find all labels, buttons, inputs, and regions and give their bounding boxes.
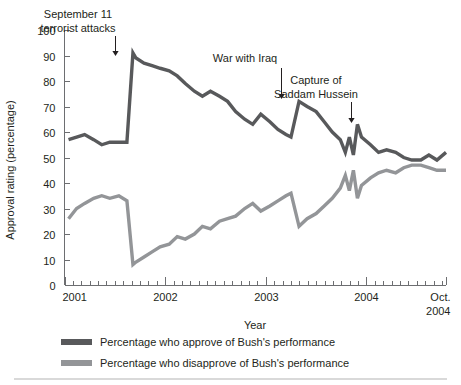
y-tick-label-10: 10 [43, 255, 55, 267]
y-tick-label-60: 60 [43, 127, 55, 139]
legend-label-disapprove: Percentage who disapprove of Bush's perf… [100, 357, 349, 369]
x-tick-label-2004: 2004 [354, 291, 378, 303]
y-tick-label-70: 70 [43, 102, 55, 114]
x-axis-tick-labels: 2001200220032004Oct.2004 [63, 291, 451, 317]
chart-annotations: September 11terrorist attacksWar with Ir… [40, 8, 357, 123]
annotation-arrow-head-capture-of-saddam-hussein [348, 118, 354, 123]
x-tick-label-2003: 2003 [254, 291, 278, 303]
annotation-text-capture-of-saddam-hussein-line2: Saddam Hussein [274, 88, 358, 100]
y-tick-label-40: 40 [43, 178, 55, 190]
x-axis-minor-ticks [74, 281, 443, 285]
legend-swatch-approve [61, 339, 92, 345]
annotation-text-war-with-iraq-line1: War with Iraq [213, 52, 277, 64]
x-tick-label-oct-year: 2004 [426, 305, 450, 317]
x-tick-label-2001: 2001 [63, 291, 87, 303]
annotation-text-capture-of-saddam-hussein-line1: Capture of [290, 74, 342, 86]
annotation-september-11: September 11terrorist attacks [40, 8, 118, 56]
legend-label-approve: Percentage who approve of Bush's perform… [100, 336, 335, 348]
y-axis-ticks [65, 31, 70, 286]
annotation-text-september-11-line2: terrorist attacks [40, 22, 116, 34]
annotation-arrow-head-september-11 [112, 51, 118, 56]
x-axis-title: Year [244, 319, 267, 331]
x-tick-label-oct: Oct. [430, 291, 450, 303]
approval-rating-line-chart: 0102030405060708090100 2001200220032004O… [0, 0, 461, 385]
y-tick-label-0: 0 [49, 280, 55, 292]
series-line-approve [69, 53, 446, 160]
y-axis-title: Approval rating (percentage) [4, 100, 16, 239]
annotation-text-september-11-line1: September 11 [44, 8, 112, 20]
annotation-capture-of-saddam-hussein: Capture ofSaddam Hussein [274, 74, 358, 123]
x-axis-major-ticks [66, 277, 447, 285]
series-line-disapprove [69, 165, 446, 264]
y-tick-label-80: 80 [43, 76, 55, 88]
chart-legend: Percentage who approve of Bush's perform… [61, 336, 349, 369]
y-tick-label-50: 50 [43, 153, 55, 165]
legend-swatch-disapprove [61, 360, 92, 366]
y-tick-label-30: 30 [43, 204, 55, 216]
y-tick-label-90: 90 [43, 51, 55, 63]
y-tick-label-20: 20 [43, 229, 55, 241]
chart-figure: 0102030405060708090100 2001200220032004O… [0, 0, 461, 385]
x-tick-label-2002: 2002 [153, 291, 177, 303]
y-axis-tick-labels: 0102030405060708090100 [37, 25, 55, 292]
